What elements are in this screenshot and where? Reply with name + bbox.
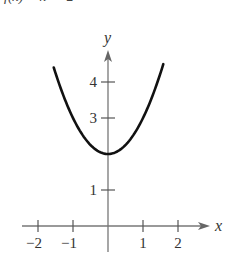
y-axis-label: y (102, 29, 112, 47)
tick-labels: −2−112134 (26, 74, 182, 251)
x-tick-label: 2 (174, 235, 182, 251)
function-graph: −2−112134 x y (0, 0, 239, 274)
y-tick-label: 4 (90, 74, 98, 90)
x-tick-label: 1 (139, 235, 147, 251)
y-tick-label: 3 (90, 110, 98, 126)
x-axis-label: x (214, 217, 222, 234)
x-tick-label: −2 (26, 235, 42, 251)
x-tick-label: −1 (61, 235, 77, 251)
y-tick-label: 1 (90, 182, 98, 198)
